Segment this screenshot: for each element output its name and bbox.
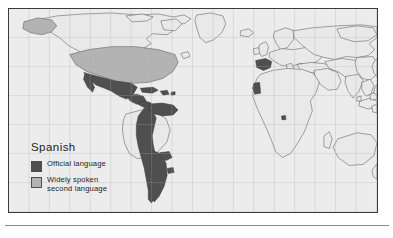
legend-entry-second-language: Widely spoken second language <box>31 176 153 193</box>
legend-label-official-language: Official language <box>47 160 106 169</box>
world-map: Spanish Official language Widely spoken … <box>8 8 378 213</box>
footer-divider-rule <box>5 225 389 226</box>
legend-entry-official: Official language <box>31 160 153 172</box>
legend-title: Spanish <box>31 141 153 154</box>
figure-spanish-language-map: Spanish Official language Widely spoken … <box>0 0 393 238</box>
legend-swatch-second-language <box>31 177 42 188</box>
legend-swatch-official-language <box>31 161 42 172</box>
map-legend: Spanish Official language Widely spoken … <box>31 141 153 197</box>
legend-label-second-language: Widely spoken second language <box>47 176 107 193</box>
